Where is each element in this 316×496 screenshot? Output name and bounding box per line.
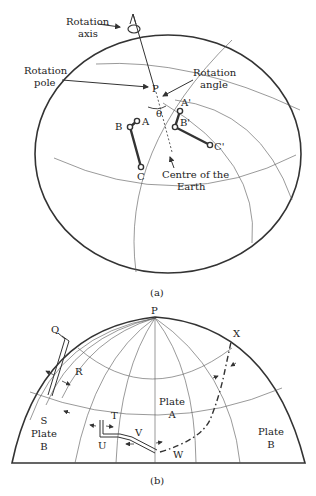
point-c-prime (207, 142, 212, 147)
label-plate-a-1: Plate (159, 396, 185, 407)
label-pole-p: P (152, 83, 159, 94)
point-b-prime (172, 124, 177, 129)
label-point-v: V (134, 427, 143, 438)
label-plate-s-3: B (40, 441, 47, 452)
label-point-u: U (98, 440, 106, 451)
label-plate-a-2: A (167, 409, 176, 420)
longitude-line (116, 318, 155, 463)
label-point-q: Q (51, 324, 59, 335)
globe-outline (35, 35, 301, 273)
ridge-q-r (48, 333, 65, 395)
diagram-canvas: Rotation axis Rotation pole Rotation ang… (0, 0, 316, 496)
rotation-circle-icon (128, 25, 140, 33)
figure-a: Rotation axis Rotation pole Rotation ang… (24, 14, 301, 298)
label-rotation-axis-2: axis (78, 28, 98, 39)
spreading-arrow (90, 425, 96, 426)
label-point-x: X (233, 328, 241, 339)
caption-a: (a) (150, 287, 164, 298)
spreading-arrow (62, 381, 70, 385)
label-point-b: B (115, 121, 122, 132)
label-rotation-angle-2: angle (200, 79, 228, 90)
label-rotation-pole-2: pole (34, 77, 56, 88)
slip-arrow (156, 442, 162, 443)
label-point-c: C (137, 171, 145, 182)
boundary-t-u-v-w (100, 420, 155, 453)
label-point-w: W (173, 449, 184, 460)
label-rotation-pole-1: Rotation (24, 65, 68, 76)
longitude-line (62, 318, 155, 398)
longitude-line (155, 318, 196, 463)
latitude-line (30, 388, 282, 415)
label-theta: θ (156, 108, 162, 119)
hemisphere-outline (12, 317, 305, 463)
label-plate-s-1: S (41, 415, 48, 426)
label-point-t: T (111, 410, 118, 421)
label-point-c-prime: C' (214, 141, 224, 152)
point-a-prime (177, 108, 182, 113)
label-point-a-prime: A' (180, 97, 191, 108)
point-b (127, 124, 132, 129)
label-rotation-angle-1: Rotation (193, 67, 237, 78)
label-plate-s-2: Plate (31, 428, 57, 439)
angle-pointer-arrow (163, 80, 193, 96)
pole-pointer-arrow (62, 80, 148, 87)
label-rotation-axis-1: Rotation (66, 16, 110, 27)
convergence-arrow (231, 363, 236, 366)
convergence-arrow (213, 376, 218, 378)
ridge-q-r (52, 336, 69, 396)
centre-pointer-arrow (170, 157, 174, 168)
slip-arrow (64, 411, 70, 413)
label-point-b-prime: B' (180, 117, 190, 128)
axis-arrowhead-icon (130, 14, 136, 24)
label-plate-b-1: Plate (258, 426, 284, 437)
label-plate-b-2: B (267, 439, 274, 450)
boundary-t-u-v-w (103, 420, 157, 450)
centre-dashed-line (156, 92, 172, 152)
caption-b: (b) (150, 475, 164, 486)
label-point-a: A (141, 116, 150, 127)
spreading-arrow (106, 426, 113, 427)
label-pole-p-b: P (151, 305, 158, 316)
point-a (134, 118, 139, 123)
label-centre-1: Centre of the (162, 169, 229, 180)
figure-b: P Q R T U V W X S Plate B Plate A Plate … (12, 305, 305, 486)
label-point-r: R (75, 366, 83, 377)
label-centre-2: Earth (177, 181, 206, 192)
point-c (138, 164, 143, 169)
